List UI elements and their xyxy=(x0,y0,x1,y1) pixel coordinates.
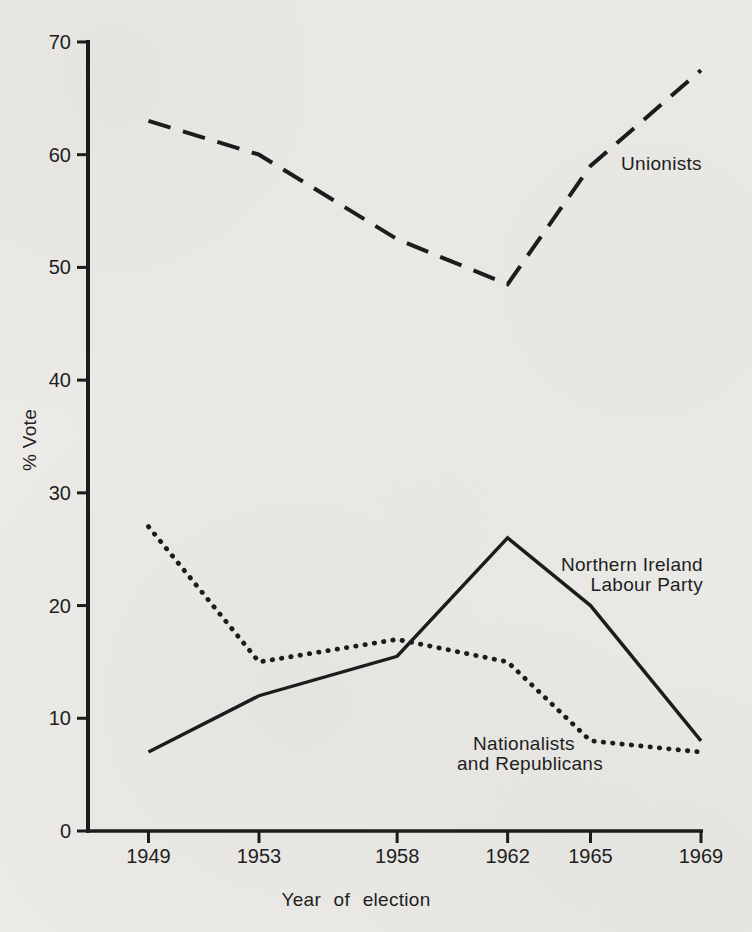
y-tick-label: 0 xyxy=(60,820,71,842)
x-tick-label: 1965 xyxy=(568,845,613,867)
x-axis-title: Year of election xyxy=(281,889,430,910)
series-line-dashed xyxy=(149,70,702,284)
y-tick-label: 10 xyxy=(49,707,71,729)
y-axis-title: % Vote xyxy=(19,409,40,471)
series-label-unionists: Unionists xyxy=(621,153,702,174)
series-label-nationalists-line2: and Republicans xyxy=(457,753,603,774)
series-label-nationalists-line1: Nationalists xyxy=(473,733,575,754)
series-label-nilp-line1: Northern Ireland xyxy=(561,554,703,575)
y-tick-label: 70 xyxy=(49,31,71,53)
x-tick-label: 1953 xyxy=(237,845,282,867)
scanned-chart-page: 010203040506070194919531958196219651969 … xyxy=(0,0,752,932)
x-tick-label: 1969 xyxy=(679,845,724,867)
y-tick-label: 60 xyxy=(49,144,71,166)
vote-share-line-chart: 010203040506070194919531958196219651969 … xyxy=(0,0,752,932)
y-tick-label: 40 xyxy=(49,369,71,391)
x-tick-label: 1949 xyxy=(126,845,171,867)
y-tick-label: 30 xyxy=(49,482,71,504)
series-label-nilp-line2: Labour Party xyxy=(591,574,704,595)
x-tick-label: 1958 xyxy=(375,845,420,867)
y-tick-label: 50 xyxy=(49,256,71,278)
series-lines xyxy=(149,70,702,752)
x-tick-label: 1962 xyxy=(485,845,530,867)
y-tick-label: 20 xyxy=(49,595,71,617)
